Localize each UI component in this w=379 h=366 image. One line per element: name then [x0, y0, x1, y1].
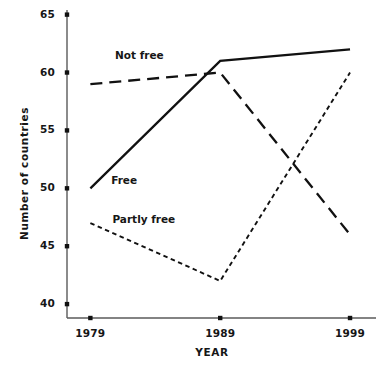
series-label-partly-free: Partly free [112, 213, 175, 225]
series-line-free [90, 49, 350, 188]
chart-canvas [0, 0, 379, 366]
y-tick-mark [65, 244, 69, 248]
y-tick-mark [65, 186, 69, 190]
y-tick-label: 45 [29, 239, 55, 251]
x-tick-mark [348, 316, 352, 320]
line-chart: 656055504540 197919891999 Not freeFreePa… [0, 0, 379, 366]
y-axis-title: Number of countries [18, 107, 30, 240]
x-tick-label: 1979 [68, 327, 112, 339]
series-label-not-free: Not free [115, 49, 164, 61]
y-tick-label: 60 [29, 66, 55, 78]
y-tick-label: 65 [29, 8, 55, 20]
x-axis-title: YEAR [0, 346, 379, 358]
data-series-layer [90, 49, 350, 281]
y-tick-label: 40 [29, 297, 55, 309]
x-tick-label: 1999 [328, 327, 372, 339]
y-tick-mark [65, 302, 69, 306]
series-label-free: Free [111, 174, 137, 186]
x-tick-mark [218, 316, 222, 320]
y-tick-label: 50 [29, 181, 55, 193]
y-tick-label: 55 [29, 123, 55, 135]
x-tick-label: 1989 [198, 327, 242, 339]
series-line-not-free [90, 73, 350, 235]
y-tick-mark [65, 128, 69, 132]
x-tick-mark [88, 316, 92, 320]
y-tick-mark [65, 12, 69, 16]
y-tick-mark [65, 70, 69, 74]
